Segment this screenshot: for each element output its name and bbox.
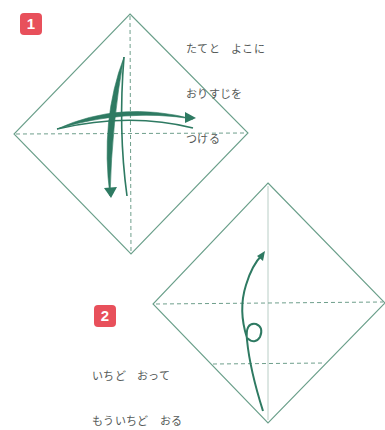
vertical-fold-arrowhead-icon: [104, 187, 117, 198]
step2-second-fold-line: [213, 363, 325, 364]
step2-number-badge: 2: [94, 305, 116, 327]
step2-instruction: いちど おって もういちど おる: [92, 339, 182, 430]
vertical-fold-arrow-tail: [122, 57, 127, 196]
fold-twice-arrow-path: [242, 255, 263, 411]
step1-number-badge: 1: [20, 13, 42, 35]
step1-instruction-line: おりすじを: [186, 87, 265, 102]
step1-instruction: たてと よこに おりすじを つける: [186, 12, 265, 177]
step2-valley-fold-line: [156, 302, 383, 304]
step2-paper: [153, 183, 385, 423]
step2-instruction-line: いちど おって: [92, 369, 182, 384]
step2-instruction-line: もういちど おる: [92, 414, 182, 429]
step2-arrow: [242, 251, 265, 411]
step1-arrows: [57, 57, 196, 198]
step1-instruction-line: つける: [186, 132, 265, 147]
step1-instruction-line: たてと よこに: [186, 42, 265, 57]
